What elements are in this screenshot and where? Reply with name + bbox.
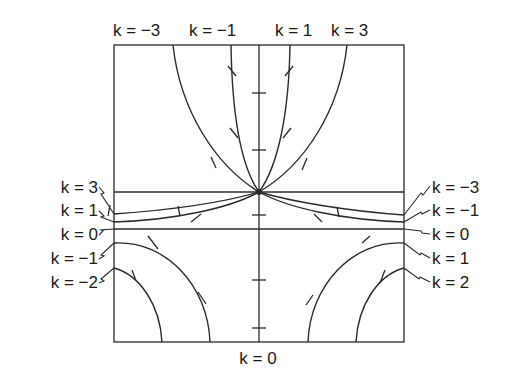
arc-right-k-2	[356, 268, 404, 342]
curve-k-3	[259, 45, 347, 192]
top-label-k-neg1: k = −1	[189, 21, 236, 40]
isocline-diagram: k = −3 k = −1 k = 1 k = 3 k = 3 k = 1 k …	[0, 0, 520, 386]
curve-k-1	[259, 45, 290, 192]
top-label-k-neg3: k = −3	[113, 21, 160, 40]
left-label-k-1: k = 1	[61, 201, 98, 220]
right-label-k-neg1: k = −1	[432, 201, 479, 220]
right-label-k-neg3: k = −3	[432, 178, 479, 197]
bottom-label-k-0: k = 0	[239, 349, 276, 368]
curve-right-k-neg3	[259, 192, 404, 215]
left-label-k-neg2: k = −2	[51, 273, 98, 292]
curve-left-k-3	[114, 192, 259, 214]
equilibrium-point	[256, 189, 262, 195]
top-label-k-3: k = 3	[331, 21, 368, 40]
arc-left-k-neg2	[114, 268, 162, 342]
arc-left-k-neg1	[114, 243, 210, 342]
curve-k-neg1	[231, 45, 259, 192]
right-label-k-1: k = 1	[432, 249, 469, 268]
left-label-k-0: k = 0	[61, 225, 98, 244]
right-label-k-2: k = 2	[432, 273, 469, 292]
top-label-k-1: k = 1	[275, 21, 312, 40]
left-label-k-3: k = 3	[61, 178, 98, 197]
label-leaders	[99, 186, 430, 283]
upper-solution-curves	[173, 45, 347, 192]
right-label-k-0: k = 0	[432, 225, 469, 244]
curve-k-neg3	[173, 45, 259, 192]
left-label-k-neg1: k = −1	[51, 249, 98, 268]
slope-marks	[108, 66, 385, 305]
arc-right-k-1	[308, 243, 404, 342]
